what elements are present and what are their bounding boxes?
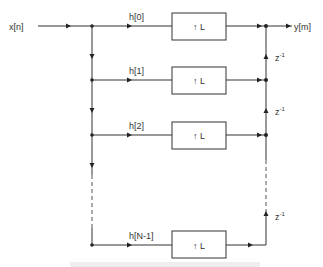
- block-label: ↑ L: [193, 241, 205, 251]
- arrow-down-icon: [90, 163, 95, 168]
- arrow-up-icon: [264, 54, 269, 59]
- coef-label: h[N-1]: [129, 231, 154, 241]
- arrow-icon: [66, 24, 71, 29]
- arrow-icon: [127, 243, 132, 248]
- delay-label: z-1: [275, 52, 285, 63]
- arrow-icon: [286, 24, 291, 29]
- sum-node-icon: [264, 133, 268, 137]
- polyphase-diagram: x[n] h[0] ↑ L h[1] ↑ L h[2] ↑ L: [0, 0, 323, 267]
- arrow-icon: [257, 78, 262, 83]
- arrow-icon: [248, 243, 253, 248]
- arrow-icon: [127, 133, 132, 138]
- arrow-icon: [127, 24, 132, 29]
- branch-0: h[0] ↑ L: [90, 12, 266, 40]
- delay-label: z-1: [275, 106, 285, 117]
- sum-node-icon: [264, 78, 268, 82]
- faint-caption: [70, 262, 260, 267]
- coef-label: h[1]: [129, 66, 144, 76]
- arrow-down-icon: [90, 108, 95, 113]
- input-label: x[n]: [9, 22, 24, 32]
- block-label: ↑ L: [193, 76, 205, 86]
- delay-label: z-1: [275, 211, 285, 222]
- output-label: y[m]: [294, 22, 311, 32]
- arrow-up-icon: [264, 108, 269, 113]
- arrow-icon: [257, 24, 262, 29]
- block-label: ↑ L: [193, 22, 205, 32]
- branch-1: h[1] ↑ L: [90, 66, 266, 94]
- coef-label: h[2]: [129, 121, 144, 131]
- branch-2: h[2] ↑ L: [90, 121, 266, 149]
- arrow-icon: [257, 133, 262, 138]
- arrow-down-icon: [90, 54, 95, 59]
- arrow-icon: [127, 78, 132, 83]
- branch-n-1: h[N-1] ↑ L: [90, 231, 266, 258]
- block-label: ↑ L: [193, 131, 205, 141]
- arrow-up-icon: [264, 211, 269, 216]
- coef-label: h[0]: [129, 12, 144, 22]
